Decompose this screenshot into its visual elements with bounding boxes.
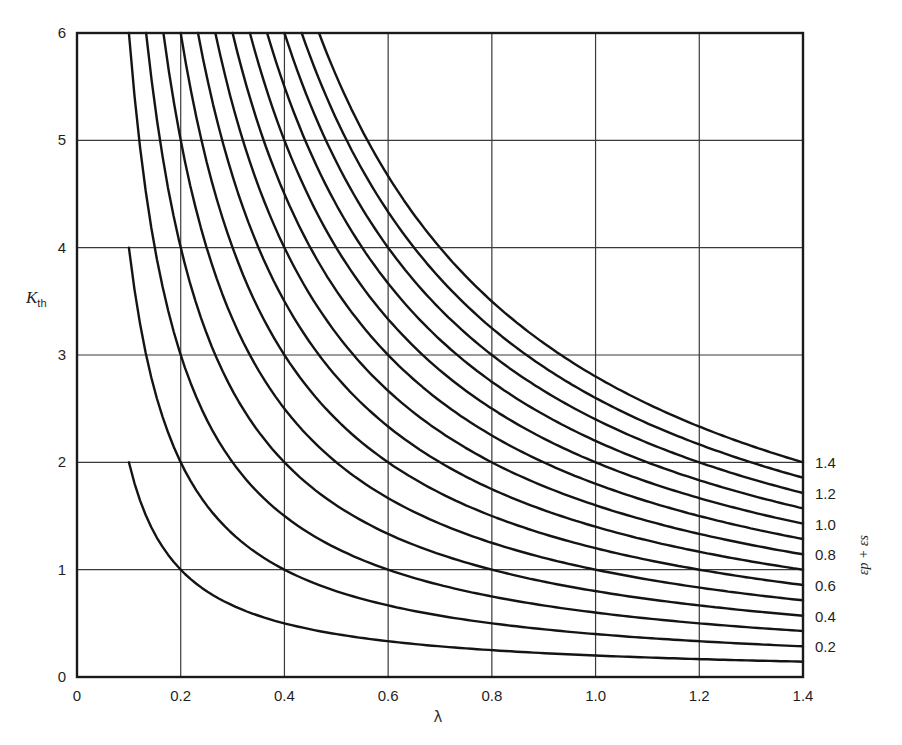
- curve-label: 0.8: [815, 546, 836, 563]
- curve-eps-1-1: [267, 34, 803, 509]
- curve-labels: 0.20.40.60.81.01.21.4: [815, 454, 836, 655]
- curve-family: [129, 33, 803, 662]
- curve-eps-0-9: [233, 33, 803, 539]
- curve-label: 1.2: [815, 485, 836, 502]
- curve-eps-0-7: [198, 33, 803, 570]
- curve-label: 0.6: [815, 577, 836, 594]
- curve-label: 0.2: [815, 638, 836, 655]
- curve-eps-1-0: [250, 33, 803, 524]
- x-tick-label: 0: [73, 687, 81, 704]
- x-axis-label: λ: [434, 708, 443, 726]
- curve-label: 1.0: [815, 516, 836, 533]
- y-axis-label: Kth: [25, 288, 47, 309]
- y-tick-label: 3: [58, 346, 66, 363]
- x-tick-label: 0.2: [170, 687, 191, 704]
- curve-eps-0-5: [164, 34, 803, 600]
- curve-label: 1.4: [815, 454, 836, 471]
- y-axis-ticks: 0123456: [58, 24, 66, 685]
- curve-eps-1-2: [284, 33, 803, 493]
- chart: 00.20.40.60.81.01.21.4 0123456 0.20.40.6…: [0, 0, 902, 745]
- curve-eps-0-8: [216, 34, 804, 555]
- y-tick-label: 0: [58, 668, 66, 685]
- x-tick-label: 1.2: [689, 687, 710, 704]
- curve-eps-0-4: [146, 33, 803, 616]
- x-tick-label: 1.4: [793, 687, 814, 704]
- y-tick-label: 4: [58, 239, 66, 256]
- x-tick-label: 0.6: [378, 687, 399, 704]
- parameter-axis-label: εp + εs: [856, 534, 871, 574]
- y-tick-label: 6: [58, 24, 66, 41]
- y-tick-label: 5: [58, 131, 66, 148]
- grid-lines: [77, 33, 803, 677]
- curve-label: 0.4: [815, 608, 836, 625]
- x-axis-ticks: 00.20.40.60.81.01.21.4: [73, 687, 814, 704]
- y-tick-label: 1: [58, 561, 66, 578]
- x-tick-label: 1.0: [585, 687, 606, 704]
- y-axis-label-subscript: th: [37, 297, 46, 309]
- x-tick-label: 0.4: [274, 687, 295, 704]
- x-tick-label: 0.8: [481, 687, 502, 704]
- y-tick-label: 2: [58, 453, 66, 470]
- curve-eps-1-3: [302, 33, 803, 478]
